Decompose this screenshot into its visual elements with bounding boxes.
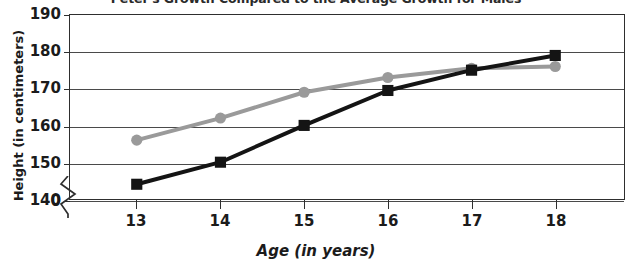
chart-figure: Peter's Growth Compared to the Average G…	[0, 0, 632, 272]
gridline	[70, 52, 624, 53]
x-axis-tick-label: 15	[294, 212, 315, 230]
x-axis-tick	[304, 200, 305, 209]
series-layer	[70, 15, 624, 199]
data-point-circle	[466, 63, 477, 74]
data-point-circle	[131, 135, 142, 146]
x-axis-tick	[136, 200, 137, 209]
series-1	[131, 61, 561, 146]
y-axis-tick-label: 160	[15, 117, 61, 135]
y-axis-tick-label: 170	[15, 79, 61, 97]
y-axis-tick	[64, 164, 70, 165]
y-axis-tick	[64, 52, 70, 53]
gridline	[70, 201, 624, 202]
y-axis-tick-label-zero: 0	[15, 192, 61, 210]
y-axis-tick	[64, 15, 70, 16]
chart-title: Peter's Growth Compared to the Average G…	[0, 0, 632, 6]
y-axis-tick-label: 190	[15, 5, 61, 23]
series-line	[137, 67, 555, 141]
y-axis-tick	[64, 89, 70, 90]
gridline	[70, 89, 624, 90]
gridline	[70, 164, 624, 165]
data-point-square	[215, 157, 226, 168]
x-axis-tick	[472, 200, 473, 209]
x-axis-tick-label: 18	[546, 212, 567, 230]
series-line	[137, 55, 555, 184]
x-axis-tick-label: 13	[126, 212, 147, 230]
data-point-circle	[299, 87, 310, 98]
x-axis: 131415161718	[69, 199, 625, 200]
x-axis-tick-label: 17	[462, 212, 483, 230]
y-axis-tick	[64, 127, 70, 128]
data-point-square	[299, 120, 310, 131]
x-axis-title: Age (in years)	[0, 242, 632, 260]
plot-area	[69, 14, 625, 200]
data-point-square	[131, 179, 142, 190]
x-axis-tick-label: 14	[210, 212, 231, 230]
axis-break-icon	[57, 176, 79, 218]
data-point-circle	[382, 72, 393, 83]
x-axis-tick	[556, 200, 557, 209]
data-point-square	[466, 65, 477, 76]
data-point-circle	[215, 113, 226, 124]
y-axis-tick-label: 180	[15, 42, 61, 60]
x-axis-tick	[388, 200, 389, 209]
x-axis-tick-label: 16	[378, 212, 399, 230]
y-axis-tick-label: 150	[15, 154, 61, 172]
x-axis-tick	[220, 200, 221, 209]
series-2	[131, 50, 561, 190]
gridline	[70, 127, 624, 128]
data-point-circle	[550, 61, 561, 72]
data-point-square	[382, 85, 393, 96]
